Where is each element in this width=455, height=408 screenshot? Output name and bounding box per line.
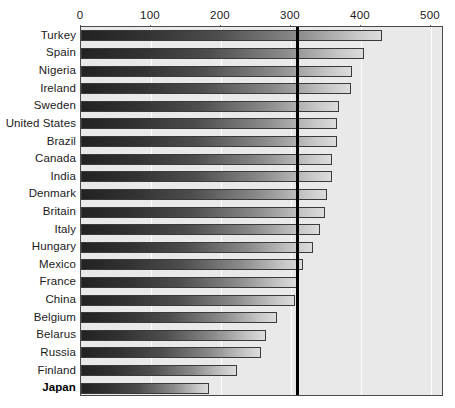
category-label: Hungary (0, 240, 76, 252)
category-label: Brazil (0, 135, 76, 147)
bar (81, 277, 299, 288)
bar (81, 330, 266, 341)
bar (81, 101, 339, 112)
category-label: Ireland (0, 82, 76, 94)
x-tick-label: 400 (350, 8, 370, 22)
bar-chart: 0100200300400500 TurkeySpainNigeriaIrela… (0, 0, 455, 408)
bar (81, 365, 237, 376)
x-tick-label: 300 (280, 8, 300, 22)
category-label: Belgium (0, 311, 76, 323)
category-label: United States (0, 117, 76, 129)
category-label: Denmark (0, 187, 76, 199)
bar (81, 48, 364, 59)
bar (81, 189, 327, 200)
category-label: Finland (0, 364, 76, 376)
bar (81, 207, 325, 218)
category-label: Russia (0, 346, 76, 358)
bar (81, 154, 332, 165)
category-label: Turkey (0, 29, 76, 41)
bar (81, 171, 332, 182)
category-label: Mexico (0, 258, 76, 270)
category-label: Italy (0, 223, 76, 235)
category-label: Spain (0, 46, 76, 58)
category-label: Nigeria (0, 64, 76, 76)
x-tick-label: 0 (77, 8, 84, 22)
bars-layer (81, 27, 442, 395)
x-tick-label: 100 (140, 8, 160, 22)
bar (81, 312, 277, 323)
bar (81, 347, 261, 358)
bar (81, 295, 295, 306)
category-label: Sweden (0, 99, 76, 111)
x-tick-label: 200 (210, 8, 230, 22)
bar (81, 383, 209, 394)
category-label: Japan (0, 381, 76, 393)
bar (81, 66, 352, 77)
bar (81, 30, 382, 41)
bar (81, 259, 303, 270)
category-label: Canada (0, 152, 76, 164)
x-tick-label: 500 (420, 8, 440, 22)
plot-area (80, 26, 443, 396)
category-label: India (0, 170, 76, 182)
bar (81, 83, 351, 94)
bar (81, 224, 320, 235)
category-label: France (0, 275, 76, 287)
category-axis-labels: TurkeySpainNigeriaIrelandSwedenUnited St… (0, 26, 76, 396)
reference-line (296, 27, 299, 395)
category-label: Belarus (0, 328, 76, 340)
category-label: China (0, 293, 76, 305)
x-axis-ticks: 0100200300400500 (0, 8, 455, 24)
category-label: Britain (0, 205, 76, 217)
bar (81, 242, 313, 253)
